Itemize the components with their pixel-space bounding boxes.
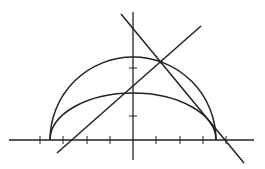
increasing-line bbox=[57, 26, 201, 153]
intersection-point bbox=[159, 60, 162, 63]
diagram-canvas bbox=[0, 0, 265, 169]
coordinate-axes bbox=[9, 12, 254, 160]
geometry-figure bbox=[0, 0, 265, 169]
